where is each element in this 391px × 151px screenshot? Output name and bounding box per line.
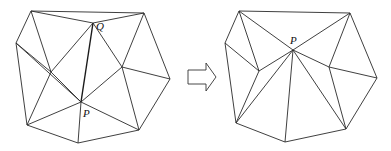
edge-G-I (236, 123, 285, 142)
edge-A-B (31, 11, 144, 13)
edge-G-P (27, 102, 81, 125)
edge-I-P (285, 50, 293, 142)
edge-E-F (122, 67, 170, 79)
edge-H-F (346, 78, 377, 129)
edge-G-I (27, 125, 78, 143)
edge-C-G (16, 43, 27, 125)
edge-H-P (293, 50, 346, 129)
right-arrow-icon (188, 63, 216, 91)
edge-C-P (16, 43, 81, 102)
edge-B-F (350, 13, 377, 78)
label-p-right: P (289, 34, 297, 46)
edge-D-G (27, 72, 51, 125)
edge-A-Q (31, 11, 93, 23)
left-triangulation (16, 11, 170, 143)
label-p-left: P (82, 107, 90, 119)
edge-G-P (236, 50, 293, 123)
edge-A-D (31, 11, 51, 72)
edge-A-C (225, 11, 239, 43)
edge-D-P (259, 50, 293, 71)
edge-B-F (144, 13, 170, 79)
edge-F-H (139, 79, 170, 130)
edge-A-B (239, 11, 350, 13)
edge-B-E (122, 13, 144, 67)
label-q-left: Q (96, 20, 104, 32)
edge-A-D (239, 11, 259, 71)
edge-B-P (293, 13, 350, 50)
triangulation-diagram: Q P P (0, 0, 391, 151)
edge-A-C (16, 11, 31, 43)
edge-B-E (329, 13, 350, 67)
edge-P-E (81, 67, 122, 102)
edge-E-F (329, 67, 377, 78)
edge-D-P (51, 72, 81, 102)
edge-I-P (78, 102, 81, 143)
edge-A-P (239, 11, 293, 50)
edge-H-E (329, 67, 346, 129)
edge-I-H (78, 130, 139, 143)
edge-I-H (285, 129, 346, 142)
edge-E-H (122, 67, 139, 130)
edge-C-G (225, 43, 236, 123)
right-triangulation (225, 11, 377, 142)
edge-D-G (236, 71, 259, 123)
